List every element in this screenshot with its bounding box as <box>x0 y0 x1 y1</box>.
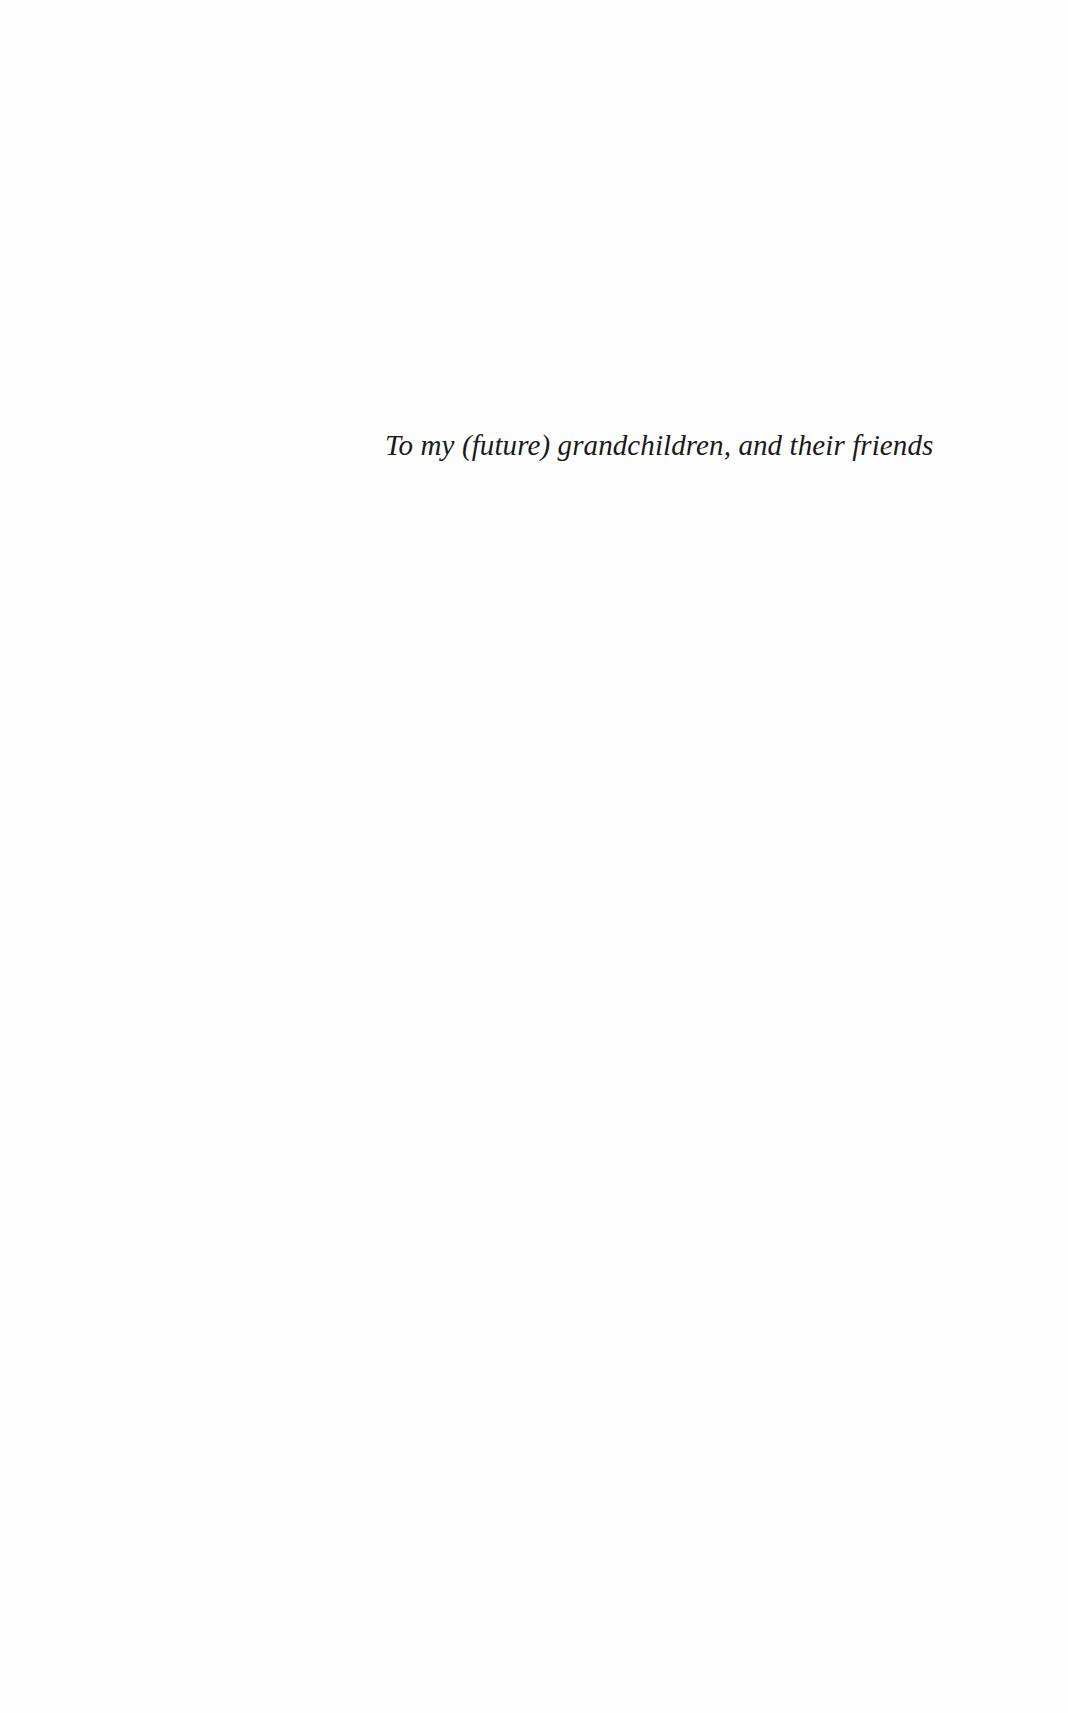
dedication-page: To my (future) grandchildren, and their … <box>0 0 1068 1713</box>
dedication-text: To my (future) grandchildren, and their … <box>385 425 945 465</box>
